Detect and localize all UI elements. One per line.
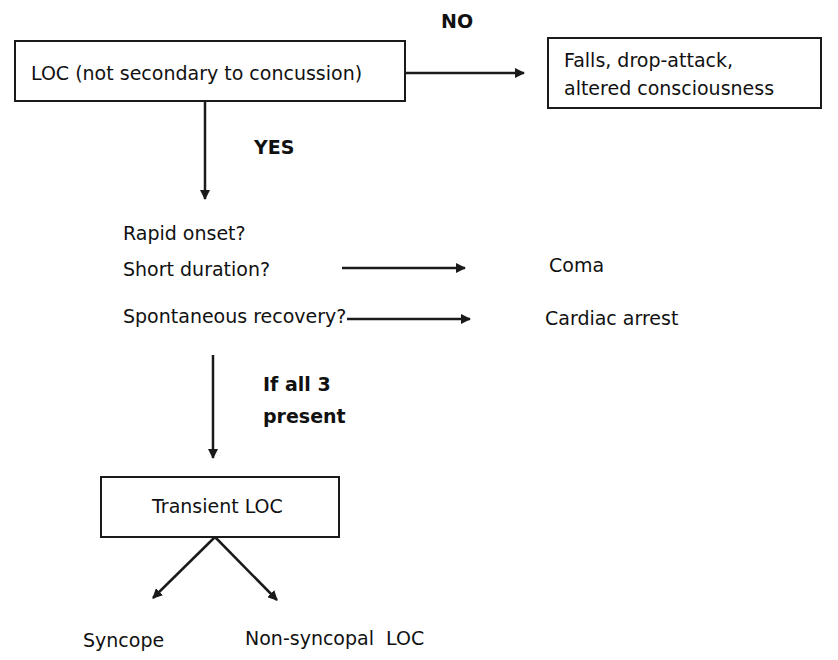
arrow-syncope [153,537,215,598]
edge-label-no: NO [441,10,473,33]
node-loc-label: LOC (not secondary to concussion) [31,62,362,85]
edge-label-yes: YES [254,136,294,159]
node-transient-loc-label: Transient LOC [152,495,283,518]
node-loc: LOC (not secondary to concussion) [14,40,406,102]
node-falls-line1: Falls, drop-attack, [564,49,733,72]
node-cardiac-arrest: Cardiac arrest [545,307,678,330]
question-rapid-onset: Rapid onset? [123,222,246,245]
edge-label-if-all-line1: If all 3 [263,373,331,396]
node-syncope: Syncope [83,629,164,652]
node-falls: Falls, drop-attack, altered consciousnes… [547,37,822,109]
node-falls-line2: altered consciousness [564,77,774,100]
node-coma: Coma [549,254,604,277]
node-non-syncopal-loc: Non-syncopal LOC [245,627,424,650]
question-spontaneous-recovery: Spontaneous recovery? [123,305,346,328]
arrow-nonsyncopal [215,537,277,600]
question-short-duration: Short duration? [123,258,270,281]
edge-label-if-all-line2: present [263,405,346,428]
node-transient-loc: Transient LOC [100,476,340,538]
